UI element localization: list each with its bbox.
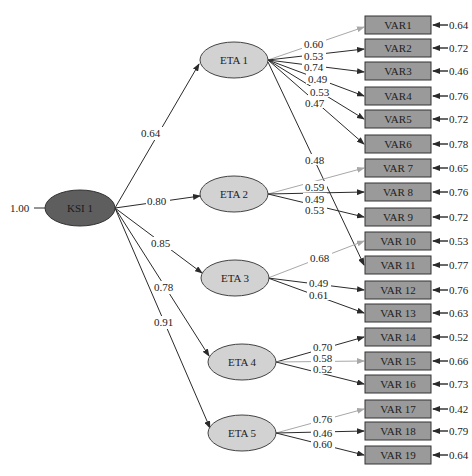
path-label-ksi-eta1: 0.64: [141, 127, 161, 139]
var-label: VAR 15: [380, 355, 416, 367]
ksi-node: 1.00 KSI 1: [10, 190, 115, 226]
path-label-ksi-eta2: 0.80: [147, 195, 167, 207]
var-label: VAR 11: [380, 259, 415, 271]
error-label: 0.76: [449, 186, 469, 198]
var-label: VAR 8: [383, 186, 414, 198]
structural-paths: 0.64 0.80 0.85 0.78 0.91: [115, 64, 210, 428]
var-label: VAR 14: [380, 331, 416, 343]
error-label: 0.65: [449, 162, 469, 174]
var-label: VAR6: [384, 138, 412, 150]
loading-label: 0.60: [313, 438, 333, 450]
error-label: 0.76: [449, 284, 469, 296]
path-label-ksi-eta5: 0.91: [154, 316, 173, 328]
loading-label: 0.49: [308, 73, 328, 85]
loading-label: 0.68: [310, 252, 330, 264]
error-label: 0.73: [449, 378, 469, 390]
error-label: 0.78: [449, 138, 469, 150]
error-label: 0.77: [449, 259, 469, 271]
eta-label: ETA 3: [221, 272, 250, 284]
error-label: 0.76: [449, 90, 469, 102]
measurement-paths: 0.60 0.53 0.74 0.49 0.53 0.47 0.48 0.59 …: [268, 27, 364, 455]
loading-label: 0.52: [313, 363, 332, 375]
var-label: VAR5: [384, 113, 412, 125]
var-label: VAR 19: [380, 449, 416, 461]
error-label: 0.53: [449, 235, 469, 247]
path-label-ksi-eta3: 0.85: [151, 237, 171, 249]
eta-label: ETA 5: [228, 427, 257, 439]
var-label: VAR 7: [383, 162, 414, 174]
error-label: 0.72: [449, 211, 468, 223]
loading-label: 0.53: [305, 204, 325, 216]
loading-label: 0.60: [304, 38, 324, 50]
error-label: 0.72: [449, 42, 468, 54]
error-label: 0.64: [449, 449, 469, 461]
eta-nodes: ETA 1 ETA 2 ETA 3 ETA 4 ETA 5: [200, 42, 276, 451]
error-terms: 0.64 0.72 0.46 0.76 0.72 0.78 0.65 0.76 …: [433, 19, 469, 461]
eta-label: ETA 1: [220, 54, 248, 66]
var-label: VAR 18: [380, 425, 416, 437]
sem-path-diagram: 0.64 0.80 0.85 0.78 0.91: [0, 0, 472, 476]
var-label: VAR 9: [383, 211, 414, 223]
var-label: VAR 10: [380, 235, 416, 247]
error-label: 0.64: [449, 19, 469, 31]
eta-label: ETA 2: [220, 188, 248, 200]
var-label: VAR 13: [380, 307, 416, 319]
error-label: 0.52: [449, 331, 468, 343]
observed-variables: VAR1 VAR2 VAR3 VAR4 VAR5 VAR6 VAR 7 VAR …: [365, 16, 431, 464]
loading-label: 0.74: [304, 61, 324, 73]
var-label: VAR3: [384, 65, 412, 77]
var-label: VAR 17: [380, 403, 416, 415]
error-label: 0.79: [449, 425, 469, 437]
loading-label: 0.76: [313, 413, 333, 425]
loading-label: 0.47: [305, 97, 325, 109]
error-label: 0.42: [449, 403, 468, 415]
ksi-variance-label: 1.00: [10, 202, 30, 214]
error-label: 0.72: [449, 113, 468, 125]
loading-label: 0.59: [305, 181, 325, 193]
eta-label: ETA 4: [228, 356, 257, 368]
var-label: VAR2: [384, 42, 411, 54]
loading-label: 0.48: [305, 154, 325, 166]
ksi-label: KSI 1: [67, 202, 93, 214]
path-label-ksi-eta4: 0.78: [154, 281, 174, 293]
var-label: VAR 12: [380, 284, 416, 296]
loading-label: 0.49: [309, 277, 329, 289]
loading-label: 0.61: [309, 289, 328, 301]
var-label: VAR 16: [380, 378, 416, 390]
error-label: 0.63: [449, 307, 469, 319]
error-label: 0.46: [449, 65, 469, 77]
error-label: 0.66: [449, 355, 469, 367]
var-label: VAR1: [384, 19, 411, 31]
var-label: VAR4: [384, 90, 412, 102]
